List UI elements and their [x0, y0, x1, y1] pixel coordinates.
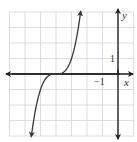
x-tick-label-minus-1: −1: [94, 76, 105, 87]
x-axis-label: x: [123, 76, 129, 88]
y-tick-label-1: 1: [110, 53, 115, 64]
function-graph: y x −1 1: [0, 0, 137, 142]
y-axis-label: y: [121, 9, 127, 21]
